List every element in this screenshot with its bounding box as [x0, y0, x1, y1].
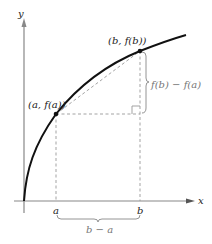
run-label: b − a	[86, 224, 113, 235]
point-a-label: (a, f(a))	[28, 99, 66, 110]
function-curve	[24, 35, 186, 201]
x-axis	[14, 199, 195, 204]
secant-line	[56, 51, 140, 114]
point-b-label: (b, f(b))	[108, 35, 147, 46]
b-tick-label: b	[137, 205, 143, 216]
point-a	[54, 112, 59, 117]
rise-brace	[142, 52, 149, 113]
x-axis-label: x	[198, 195, 204, 206]
a-tick-label: a	[53, 205, 59, 216]
y-axis-label: y	[17, 8, 24, 19]
point-b	[138, 49, 143, 54]
rise-label: f(b) − f(a)	[150, 79, 201, 90]
mvt-diagram: y x (a, f(a)) (b, f(b)) a b f(b) − f(a) …	[0, 0, 212, 244]
right-angle-marker	[132, 106, 140, 114]
run-brace	[57, 215, 140, 222]
